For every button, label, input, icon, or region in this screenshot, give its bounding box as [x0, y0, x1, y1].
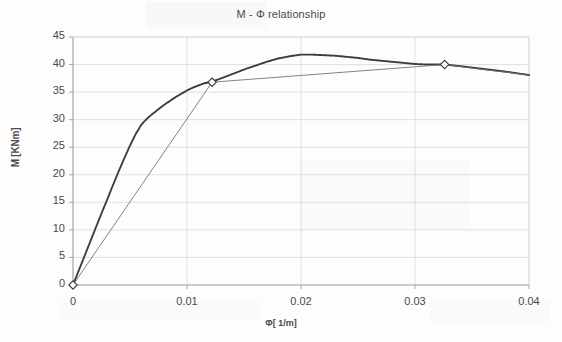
plot-area: [0, 0, 562, 342]
axis-tick-marks: [69, 37, 529, 289]
origin-marker: [69, 281, 77, 289]
ultimate-point-marker: [440, 60, 448, 68]
grid-lines: [73, 37, 529, 285]
chart-figure: M - Φ relationship M [KNm] Φ[ 1/m] 05101…: [0, 0, 562, 342]
yield-point-marker: [208, 78, 216, 86]
